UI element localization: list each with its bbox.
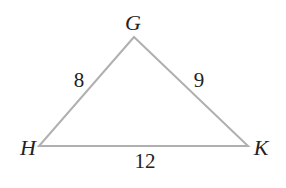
vertex-label-h: H <box>19 135 37 160</box>
side-label-hk: 12 <box>135 149 156 173</box>
vertex-label-g: G <box>125 10 141 35</box>
triangle-ghk <box>39 37 248 146</box>
triangle-diagram: G H K 8 9 12 <box>0 0 286 188</box>
side-label-gk: 9 <box>194 68 205 92</box>
side-label-hg: 8 <box>74 68 85 92</box>
vertex-label-k: K <box>253 135 270 160</box>
